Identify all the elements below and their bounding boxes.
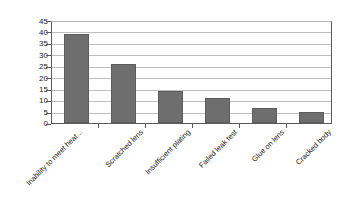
bar	[64, 34, 89, 123]
gridline	[52, 67, 331, 68]
gridline	[52, 113, 331, 114]
bar	[205, 98, 230, 123]
bar	[252, 108, 277, 123]
y-axis-tick-label: 35	[26, 40, 48, 48]
bar	[299, 112, 324, 123]
gridline	[52, 78, 331, 79]
plot-area	[51, 21, 332, 124]
bar-chart: 45 40 35 30 25 20 15 10 5 0 Inability to…	[0, 0, 347, 208]
gridline	[52, 44, 331, 45]
y-axis-tick-label: 0	[26, 120, 48, 128]
gridline	[52, 32, 331, 33]
x-axis-tick-mark	[145, 124, 146, 128]
bar	[158, 91, 183, 123]
y-axis-tick-label: 5	[26, 109, 48, 117]
bar	[111, 64, 136, 123]
y-axis-tick-label: 25	[26, 63, 48, 71]
x-axis-tick-mark	[98, 124, 99, 128]
y-axis-tick-label: 20	[26, 75, 48, 83]
y-axis-tick-label: 15	[26, 86, 48, 94]
x-axis-category-label: Inability to meet heat...	[0, 128, 84, 208]
y-axis-tick-mark	[46, 124, 51, 125]
y-axis-tick-label: 40	[26, 29, 48, 37]
gridline	[52, 90, 331, 91]
gridline	[52, 55, 331, 56]
y-axis-tick-label: 30	[26, 52, 48, 60]
x-axis-tick-mark	[192, 124, 193, 128]
y-axis-tick-label: 45	[26, 18, 48, 26]
gridline	[52, 101, 331, 102]
x-axis-tick-mark	[239, 124, 240, 128]
x-axis-tick-mark	[286, 124, 287, 128]
y-axis-tick-label: 10	[26, 97, 48, 105]
